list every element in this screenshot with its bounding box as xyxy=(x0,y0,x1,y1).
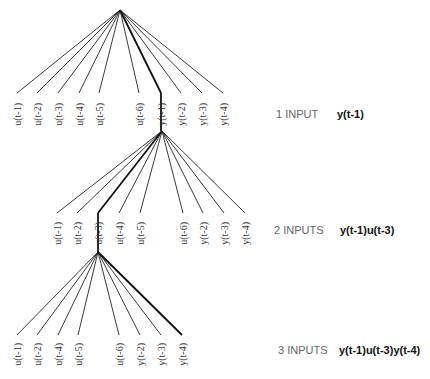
leaf-label: u(t-1) xyxy=(12,343,24,366)
leaf-label: u(t-5) xyxy=(135,222,147,245)
tree-leaf-labels: u(t-1)u(t-2)u(t-3)u(t-4)u(t-5)u(t-6)y(t-… xyxy=(12,103,252,366)
edge-level-1-u(t-1) xyxy=(17,10,120,93)
leaf-label: u(t-3) xyxy=(53,103,65,126)
edge-level-2-u(t-4) xyxy=(119,131,162,213)
leaf-label: u(t-4) xyxy=(53,343,65,366)
leaf-label: y(t-2) xyxy=(135,343,147,366)
level-2-caption: 2 INPUTS xyxy=(274,224,324,236)
edge-level-3-u(t-6) xyxy=(98,252,119,335)
edge-level-2-u(t-5) xyxy=(140,131,162,213)
level-1-model: y(t-1) xyxy=(337,108,364,120)
level-3-caption: 3 INPUTS xyxy=(278,344,328,356)
edge-level-1-y(t-3) xyxy=(120,10,202,93)
leaf-label: y(t-3) xyxy=(197,103,209,126)
leaf-label: y(t-3) xyxy=(219,222,231,245)
edge-level-1-u(t-4) xyxy=(79,10,120,93)
leaf-label: y(t-2) xyxy=(198,222,210,245)
leaf-label: u(t-3) xyxy=(93,222,105,245)
edge-level-3-u(t-4) xyxy=(58,252,98,335)
leaf-label: u(t-1) xyxy=(52,222,64,245)
leaf-label: y(t-2) xyxy=(176,103,188,126)
level-3-model: y(t-1)u(t-3)y(t-4) xyxy=(339,344,420,356)
edge-level-1-u(t-5) xyxy=(99,10,120,93)
input-selection-tree: u(t-1)u(t-2)u(t-3)u(t-4)u(t-5)u(t-6)y(t-… xyxy=(0,0,430,379)
leaf-label: u(t-4) xyxy=(74,103,86,126)
edge-level-2-u(t-3) xyxy=(98,131,162,213)
edge-level-2-u(t-6) xyxy=(162,131,183,213)
edge-level-3-u(t-2) xyxy=(37,252,98,335)
leaf-label: y(t-3) xyxy=(156,343,168,366)
edge-level-1-u(t-2) xyxy=(37,10,120,93)
leaf-label: y(t-4) xyxy=(218,103,230,126)
edge-level-2-u(t-1) xyxy=(57,131,162,213)
leaf-label: u(t-5) xyxy=(73,343,85,366)
leaf-label: u(t-5) xyxy=(94,103,106,126)
edge-level-2-y(t-2) xyxy=(162,131,203,213)
leaf-label: y(t-4) xyxy=(177,343,189,366)
leaf-label: u(t-2) xyxy=(32,103,44,126)
edge-level-2-u(t-2) xyxy=(77,131,162,213)
edge-level-3-y(t-3) xyxy=(98,252,161,335)
leaf-label: u(t-4) xyxy=(114,222,126,245)
edge-level-3-y(t-4) xyxy=(98,252,182,335)
tree-edges xyxy=(17,10,245,335)
edge-level-1-u(t-3) xyxy=(58,10,120,93)
leaf-label: y(t-1) xyxy=(156,103,168,126)
edge-level-2-y(t-3) xyxy=(162,131,224,213)
leaf-label: u(t-6) xyxy=(114,343,126,366)
leaf-label: u(t-6) xyxy=(134,103,146,126)
edge-level-3-u(t-1) xyxy=(17,252,98,335)
leaf-label: u(t-6) xyxy=(178,222,190,245)
level-2-model: y(t-1)u(t-3) xyxy=(340,224,394,236)
leaf-label: u(t-2) xyxy=(72,222,84,245)
edge-level-2-y(t-4) xyxy=(162,131,245,213)
leaf-label: u(t-2) xyxy=(32,343,44,366)
level-1-caption: 1 INPUT xyxy=(276,108,318,120)
edge-level-1-y(t-1) xyxy=(120,10,161,93)
edge-level-3-u(t-5) xyxy=(78,252,98,335)
leaf-label: y(t-4) xyxy=(240,222,252,245)
edge-level-3-y(t-2) xyxy=(98,252,140,335)
leaf-label: u(t-1) xyxy=(12,103,24,126)
